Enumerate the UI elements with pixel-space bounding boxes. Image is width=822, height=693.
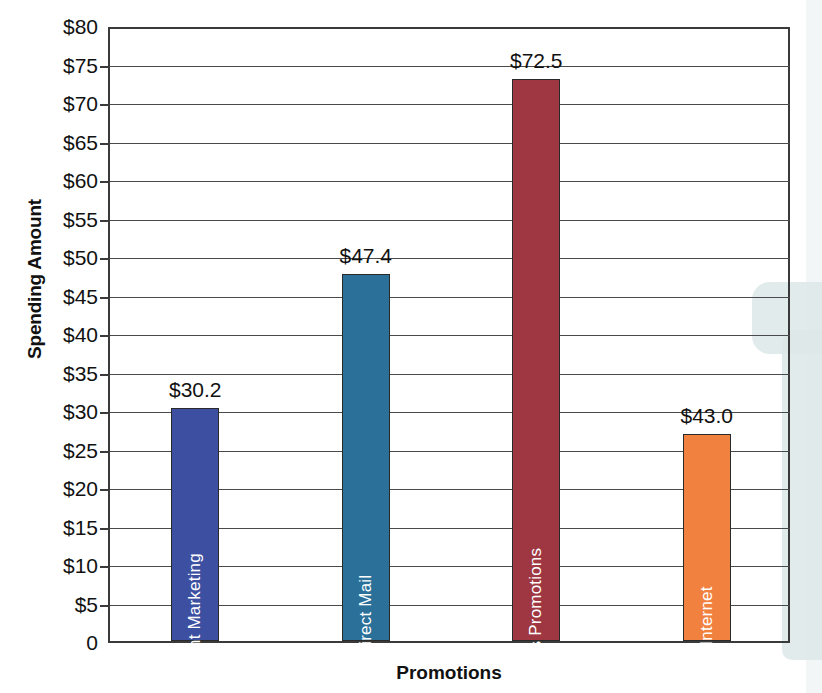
plot-border-right: [788, 27, 790, 641]
y-axis-tick-label: $55: [12, 208, 108, 232]
bar-item[interactable]: Event Marketing$30.2: [171, 27, 219, 641]
y-axis-tick-label: $40: [12, 323, 108, 347]
y-axis-tick-label: $80: [12, 15, 108, 39]
bar-item[interactable]: Internet$43.0: [683, 27, 731, 641]
bar-category-label: Event Marketing: [185, 553, 205, 679]
y-axis-tick-mark: [100, 566, 108, 568]
bar-category-label: Sales Promotions: [526, 548, 546, 684]
y-axis-tick-mark: [100, 181, 108, 183]
y-axis-tick-mark: [100, 412, 108, 414]
bar-value-label: $43.0: [680, 404, 733, 428]
y-axis-tick-mark: [100, 104, 108, 106]
y-axis-tick-label: $25: [12, 439, 108, 463]
y-axis-tick-mark: [100, 605, 108, 607]
y-axis-tick-mark: [100, 335, 108, 337]
bar-chart: Spending Amount Promotions 0$5$10$15$20$…: [0, 0, 822, 693]
y-axis-tick-label: $10: [12, 554, 108, 578]
y-axis-tick-label: $15: [12, 516, 108, 540]
y-axis-tick-label: $75: [12, 54, 108, 78]
y-axis-tick-mark: [100, 374, 108, 376]
bar-value-label: $72.5: [510, 49, 563, 73]
bar-value-label: $30.2: [169, 378, 222, 402]
bar[interactable]: Internet: [683, 434, 731, 641]
bar-category-label: Direct Mail: [356, 575, 376, 658]
bar[interactable]: Sales Promotions: [512, 79, 560, 641]
y-axis-tick-label: $70: [12, 92, 108, 116]
y-axis-tick-label: $5: [12, 593, 108, 617]
y-axis-tick-label: $65: [12, 131, 108, 155]
x-axis-title: Promotions: [108, 662, 790, 684]
y-axis-tick-mark: [100, 451, 108, 453]
bar[interactable]: Event Marketing: [171, 408, 219, 641]
y-axis-tick-mark: [100, 220, 108, 222]
y-axis-tick-mark: [100, 258, 108, 260]
y-axis-tick-labels: 0$5$10$15$20$25$30$35$40$45$50$55$60$65$…: [0, 27, 108, 643]
y-axis-tick-mark: [100, 528, 108, 530]
y-axis-tick-label: $50: [12, 246, 108, 270]
y-axis-tick-label: 0: [12, 631, 108, 655]
y-axis-tick-label: $60: [12, 169, 108, 193]
bar-item[interactable]: Sales Promotions$72.5: [512, 27, 560, 641]
y-axis-tick-mark: [100, 66, 108, 68]
y-axis-tick-label: $45: [12, 285, 108, 309]
y-axis-tick-mark: [100, 143, 108, 145]
plot-area: Event Marketing$30.2Direct Mail$47.4Sale…: [108, 27, 790, 643]
bar-value-label: $47.4: [339, 244, 392, 268]
y-axis-tick-label: $30: [12, 400, 108, 424]
bar-category-label: Internet: [697, 586, 717, 645]
bar[interactable]: Direct Mail: [342, 274, 390, 641]
y-axis-tick-mark: [100, 489, 108, 491]
y-axis-tick-mark: [100, 297, 108, 299]
y-axis-tick-label: $20: [12, 477, 108, 501]
bar-item[interactable]: Direct Mail$47.4: [342, 27, 390, 641]
y-axis-tick-label: $35: [12, 362, 108, 386]
